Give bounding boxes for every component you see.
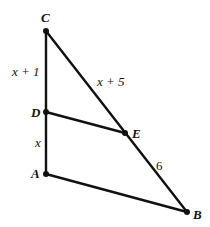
label-eb-length: 6 — [156, 158, 163, 173]
point-c — [43, 28, 49, 34]
point-d — [43, 109, 49, 115]
label-c: C — [41, 10, 50, 25]
label-cd-length: x + 1 — [11, 64, 40, 79]
label-ce-length: x + 5 — [96, 74, 125, 89]
label-da-length: x — [34, 135, 41, 150]
label-a: A — [30, 166, 40, 181]
segment-ab — [46, 174, 187, 212]
point-b — [184, 209, 190, 215]
triangle-diagram: C D A E B x + 1 x x + 5 6 — [0, 0, 210, 227]
label-d: D — [30, 105, 41, 120]
segment-de — [46, 112, 125, 133]
point-a — [43, 171, 49, 177]
label-e: E — [131, 126, 141, 141]
label-b: B — [192, 207, 202, 222]
point-e — [122, 130, 128, 136]
segment-cb — [46, 31, 187, 212]
